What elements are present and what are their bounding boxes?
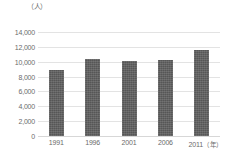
y-tick-label-8000: 8,000 bbox=[18, 73, 35, 80]
x-tick-label: 1991 bbox=[49, 139, 64, 146]
y-tick-label-14000: 14,000 bbox=[15, 29, 35, 36]
y-axis-tick-labels: 0 2,000 4,000 6,000 8,000 10,000 12,000 … bbox=[0, 32, 35, 136]
y-tick-label-12000: 12,000 bbox=[15, 43, 35, 50]
y-axis-unit-label: （人） bbox=[27, 1, 47, 11]
bar bbox=[158, 60, 173, 136]
x-tick-label-text: 2011 bbox=[189, 141, 203, 148]
bar bbox=[122, 61, 137, 136]
x-axis-unit-label: （年） bbox=[203, 141, 223, 148]
bar bbox=[49, 70, 64, 136]
x-tick-label: 2006 bbox=[158, 139, 173, 146]
x-tick-label: 1996 bbox=[85, 139, 100, 146]
y-tick-label-4000: 4,000 bbox=[18, 103, 35, 110]
y-tick-label-6000: 6,000 bbox=[18, 88, 35, 95]
plot-area bbox=[38, 32, 220, 136]
gridline-0 bbox=[38, 136, 220, 137]
x-axis-tick-labels: 19911996200120062011（年） bbox=[38, 139, 228, 153]
bar bbox=[194, 50, 209, 136]
bar bbox=[85, 59, 100, 136]
bars-layer bbox=[38, 32, 220, 136]
x-tick-label: 2011（年） bbox=[189, 139, 224, 149]
x-tick-label: 2001 bbox=[122, 139, 137, 146]
y-tick-label-10000: 10,000 bbox=[15, 58, 35, 65]
y-tick-label-0: 0 bbox=[31, 133, 35, 140]
y-tick-label-2000: 2,000 bbox=[18, 118, 35, 125]
bar-chart: （人） 0 2,000 4,000 6,000 8,000 10,000 12,… bbox=[0, 0, 228, 156]
